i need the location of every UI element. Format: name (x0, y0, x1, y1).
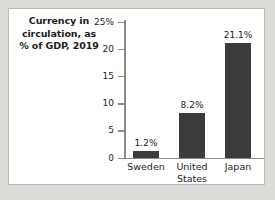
bar-united-states (179, 113, 205, 158)
category-label-united-states-line-2: States (165, 173, 219, 185)
y-tick-mark-15 (118, 76, 125, 78)
bar-sweden (133, 151, 159, 158)
y-tick-mark-0 (118, 158, 125, 160)
y-tick-mark-20 (118, 49, 125, 51)
plot-area: 0 5 10 15 20 25% 1.2% 8.2% 21.1% Sweden … (9, 9, 266, 186)
y-tick-label-5: 5 (108, 126, 114, 135)
y-tick-label-20: 20 (103, 45, 114, 54)
chart-panel: Currency in circulation, as % of GDP, 20… (8, 8, 265, 185)
y-tick-label-0: 0 (108, 154, 114, 163)
y-tick-label-10: 10 (103, 99, 114, 108)
category-label-japan: Japan (211, 161, 265, 173)
y-tick-label-15: 15 (103, 72, 114, 81)
y-tick-mark-25 (118, 22, 125, 24)
y-tick-label-25: 25% (94, 18, 114, 27)
bar-japan (225, 43, 251, 158)
bar-value-sweden: 1.2% (121, 139, 171, 148)
category-label-japan-line-1: Japan (211, 161, 265, 173)
y-tick-mark-5 (118, 130, 125, 132)
bar-value-united-states: 8.2% (167, 101, 217, 110)
x-axis-line (124, 158, 264, 160)
y-tick-mark-10 (118, 103, 125, 105)
bar-value-japan: 21.1% (213, 31, 263, 40)
